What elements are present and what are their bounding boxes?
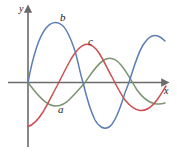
curve-c [28,44,166,126]
x-axis-label: x [164,86,168,96]
y-axis-label: y [19,4,23,14]
curve-label-a: a [58,104,64,115]
curve-label-c: c [88,36,93,47]
curve-b [28,23,165,129]
curve-figure: b c a x y [0,0,177,154]
curve-label-b: b [60,12,66,23]
plot-canvas [0,0,177,154]
